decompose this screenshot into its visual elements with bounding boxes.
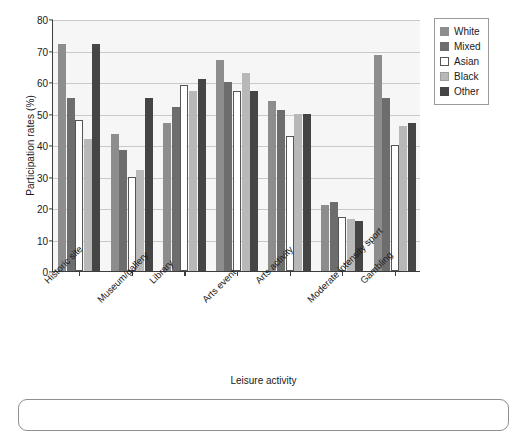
y-tick-mark	[49, 51, 53, 52]
y-tick-label: 70	[37, 46, 48, 57]
bar	[294, 114, 302, 272]
legend-item: Black	[440, 69, 481, 84]
y-tick-label: 30	[37, 172, 48, 183]
x-tick-mark	[395, 271, 396, 276]
legend-label: Other	[454, 86, 479, 97]
legend-swatch-icon	[440, 57, 449, 66]
y-tick-label: 10	[37, 235, 48, 246]
bar	[330, 202, 338, 271]
legend-swatch-icon	[440, 72, 449, 81]
plot-area: 01020304050607080	[52, 20, 420, 272]
bottom-panel	[18, 399, 509, 431]
legend-item: White	[440, 24, 481, 39]
legend-swatch-icon	[440, 42, 449, 51]
bar-group	[268, 20, 310, 271]
y-tick-label: 20	[37, 204, 48, 215]
y-tick-mark	[49, 240, 53, 241]
x-tick-mark	[184, 271, 185, 276]
bar	[92, 44, 100, 271]
bar	[233, 91, 241, 271]
bar	[58, 44, 66, 271]
y-tick-mark	[49, 145, 53, 146]
legend-swatch-icon	[440, 87, 449, 96]
bar	[172, 107, 180, 271]
x-tick-mark	[79, 271, 80, 276]
legend: WhiteMixedAsianBlackOther	[434, 18, 489, 105]
bar	[382, 98, 390, 271]
bar	[242, 73, 250, 271]
bar	[391, 145, 399, 271]
bar	[399, 126, 407, 271]
bar-group	[216, 20, 258, 271]
y-tick-mark	[49, 208, 53, 209]
x-category-label: Arts event	[200, 267, 238, 305]
bar	[268, 101, 276, 271]
bar	[189, 91, 197, 271]
y-tick-label: 80	[37, 15, 48, 26]
legend-label: Mixed	[454, 41, 481, 52]
legend-item: Asian	[440, 54, 481, 69]
bar	[119, 150, 127, 271]
y-tick-mark	[49, 19, 53, 20]
bar	[250, 91, 258, 271]
bar-group	[111, 20, 153, 271]
bar	[84, 139, 92, 271]
bar	[303, 114, 311, 272]
legend-swatch-icon	[440, 27, 449, 36]
bar	[145, 98, 153, 271]
bar-group	[163, 20, 205, 271]
y-tick-label: 50	[37, 109, 48, 120]
y-tick-mark	[49, 114, 53, 115]
legend-label: White	[454, 26, 480, 37]
bar	[198, 79, 206, 271]
x-axis-title: Leisure activity	[0, 375, 527, 386]
bar-group	[58, 20, 100, 271]
y-tick-mark	[49, 82, 53, 83]
bar-group	[321, 20, 363, 271]
bar	[224, 82, 232, 271]
legend-item: Mixed	[440, 39, 481, 54]
bar	[180, 85, 188, 271]
y-axis-title: Participation rates (%)	[25, 46, 36, 246]
y-tick-label: 40	[37, 141, 48, 152]
x-tick-mark	[290, 271, 291, 276]
bar	[111, 134, 119, 271]
bar	[216, 60, 224, 271]
y-tick-label: 60	[37, 78, 48, 89]
legend-item: Other	[440, 84, 481, 99]
bar	[321, 205, 329, 271]
bar	[163, 123, 171, 271]
legend-label: Black	[454, 71, 478, 82]
legend-label: Asian	[454, 56, 479, 67]
bar	[408, 123, 416, 271]
y-tick-mark	[49, 177, 53, 178]
